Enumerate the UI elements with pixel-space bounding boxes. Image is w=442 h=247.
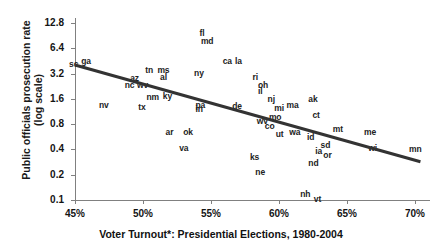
y-tick-label: 0.2 (26, 169, 64, 180)
x-tick-label: 45% (55, 208, 95, 219)
scatter-point-label: co (265, 122, 275, 131)
scatter-point-label: sd (321, 141, 331, 150)
scatter-point-label: tx (138, 103, 145, 112)
scatter-point-label: ct (312, 111, 319, 120)
scatter-point-label: ne (255, 168, 265, 177)
scatter-point-label: wi (368, 144, 377, 153)
chart-root: Public officials prosecution rate (log s… (0, 0, 442, 247)
scatter-point-label: ar (166, 128, 174, 137)
scatter-point-label: wa (289, 128, 300, 137)
x-tick-label: 55% (191, 208, 231, 219)
scatter-point-label: de (232, 102, 242, 111)
y-tick-label: 6.4 (26, 42, 64, 53)
y-axis-line (75, 18, 76, 201)
scatter-point-label: or (323, 151, 331, 160)
y-tick-label: 0.8 (26, 118, 64, 129)
scatter-point-label: mn (409, 145, 422, 154)
scatter-point-label: nm (147, 93, 160, 102)
scatter-point-label: ca (223, 57, 232, 66)
scatter-point-label: nd (308, 159, 318, 168)
scatter-point-label: il (258, 87, 263, 96)
y-tick-mark (71, 149, 76, 150)
x-tick-mark (75, 200, 76, 204)
x-tick-label: 50% (123, 208, 163, 219)
scatter-point-label: md (201, 37, 214, 46)
scatter-point-label: id (307, 133, 314, 142)
y-tick-mark (71, 124, 76, 125)
y-tick-label: 3.2 (26, 68, 64, 79)
y-tick-mark (71, 48, 76, 49)
y-tick-label: 12.8 (26, 17, 64, 28)
x-tick-label: 60% (259, 208, 299, 219)
x-tick-mark (415, 200, 416, 204)
scatter-point-label: va (179, 144, 188, 153)
x-axis-line (75, 200, 430, 201)
y-tick-mark (71, 175, 76, 176)
scatter-point-label: mo (269, 113, 282, 122)
x-tick-mark (347, 200, 348, 204)
scatter-point-label: nv (99, 101, 109, 110)
x-tick-mark (143, 200, 144, 204)
scatter-point-label: la (235, 57, 242, 66)
chart-top-title-cropped (0, 0, 442, 4)
scatter-point-label: mi (274, 104, 284, 113)
scatter-point-label: sc (69, 60, 78, 69)
scatter-point-label: ut (276, 130, 284, 139)
scatter-point-label: ny (194, 69, 204, 78)
scatter-point-label: ks (250, 153, 259, 162)
scatter-point-label: vt (314, 195, 321, 204)
scatter-point-label: ga (81, 57, 91, 66)
scatter-point-label: nh (300, 190, 310, 199)
x-tick-mark (211, 200, 212, 204)
scatter-point-label: ak (308, 95, 317, 104)
scatter-point-label: ok (183, 128, 193, 137)
x-tick-label: 70% (395, 208, 435, 219)
scatter-point-label: ma (287, 101, 299, 110)
y-tick-mark (71, 99, 76, 100)
scatter-point-label: wv (137, 81, 148, 90)
scatter-point-label: tn (145, 66, 153, 75)
scatter-point-label: in (195, 105, 202, 114)
y-tick-mark (71, 74, 76, 75)
scatter-point-label: me (364, 128, 376, 137)
x-tick-mark (279, 200, 280, 204)
y-tick-label: 0.4 (26, 143, 64, 154)
scatter-point-label: ky (163, 92, 172, 101)
x-tick-label: 65% (327, 208, 367, 219)
y-tick-label: 1.6 (26, 93, 64, 104)
x-axis-title: Voter Turnout*: Presidential Elections, … (0, 228, 442, 240)
y-tick-mark (71, 23, 76, 24)
scatter-point-label: mt (333, 125, 343, 134)
scatter-point-label: al (160, 73, 167, 82)
y-tick-label: 0.1 (26, 194, 64, 205)
